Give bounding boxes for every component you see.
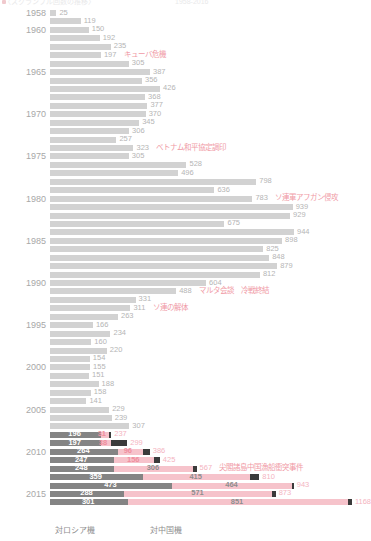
bar-total-label: 299	[130, 438, 143, 447]
bar-total-label: 873	[279, 488, 292, 497]
bar-total-label: 929	[293, 210, 306, 219]
bar-group	[50, 356, 90, 362]
bar-group	[50, 288, 176, 294]
bar-group	[50, 204, 293, 210]
bar-segment-russia	[50, 187, 214, 193]
bar-value-china: 464	[225, 480, 238, 489]
bar-row: 234	[0, 330, 368, 338]
bar-segment-russia	[50, 10, 56, 16]
bar-group	[50, 128, 129, 134]
bar-row: 307	[0, 422, 368, 430]
bar-row: 488マルタ会談 冷戦終結	[0, 287, 368, 295]
bar-segment-russia	[50, 322, 93, 328]
bar-group	[50, 499, 352, 505]
bar-segment-other	[250, 474, 259, 480]
bar-group	[50, 35, 100, 41]
bar-total-label: 166	[96, 320, 109, 329]
bar-segment-russia	[50, 61, 129, 67]
bar-segment-russia	[50, 339, 91, 345]
bar-total-label: 812	[263, 269, 276, 278]
bar-total-label: 305	[132, 151, 145, 160]
bar-segment-russia	[50, 35, 100, 41]
bar-total-label: 234	[113, 328, 126, 337]
bar-group	[50, 466, 197, 472]
bar-segment-russia	[50, 18, 81, 24]
bar-value-china: 851	[231, 497, 244, 506]
bar-total-label: 488	[179, 286, 192, 295]
bar-row: 151	[0, 372, 368, 380]
chart-title: 〈スクランブル回数の推移〉	[4, 0, 95, 6]
bar-row: 160	[0, 338, 368, 346]
bar-group	[50, 415, 112, 421]
bar-total-label: 798	[259, 176, 272, 185]
bar-row: 2005229	[0, 406, 368, 414]
bar-value-china: 156	[127, 455, 140, 464]
bar-row: 359415810	[0, 473, 368, 481]
bar-row: 323ベトナム和平協定調印	[0, 144, 368, 152]
bar-group	[50, 255, 269, 261]
event-annotation: マルタ会談 冷戦終結	[199, 286, 269, 295]
bar-total-label: 898	[285, 235, 298, 244]
bar-row: 119	[0, 17, 368, 25]
bar-group	[50, 229, 294, 235]
bar-total-label: 425	[163, 455, 176, 464]
bar-group	[50, 18, 81, 24]
bar-group	[50, 103, 147, 109]
bar-row: 1985898	[0, 237, 368, 245]
bar-row: 426	[0, 85, 368, 93]
bar-row: 496	[0, 169, 368, 177]
bar-segment-russia	[50, 381, 99, 387]
bar-total-label: 263	[121, 311, 134, 320]
bar-total-label: 307	[132, 421, 145, 430]
bar-row: 263	[0, 313, 368, 321]
bar-segment-russia	[50, 111, 146, 117]
bar-segment-russia	[50, 170, 178, 176]
chart-period-range: 1958-2016	[175, 0, 208, 6]
bar-segment-russia	[50, 86, 160, 92]
bar-row: 377	[0, 102, 368, 110]
bar-group	[50, 187, 214, 193]
bar-group	[50, 457, 160, 463]
bar-row: 306	[0, 127, 368, 135]
bar-group	[50, 297, 136, 303]
bar-segment-russia	[50, 356, 90, 362]
bar-segment-russia	[50, 27, 89, 33]
bar-row: 879	[0, 262, 368, 270]
bar-row: 247156425	[0, 456, 368, 464]
event-annotation: ソ連の解体	[153, 303, 188, 312]
bar-value-china: 415	[189, 472, 202, 481]
bar-row: 305	[0, 60, 368, 68]
bar-row: 2015288571873	[0, 490, 368, 498]
bar-row: 311ソ連の解体	[0, 304, 368, 312]
bar-segment-russia	[50, 153, 129, 159]
chart-legend: 対ロシア機 対中国機	[0, 525, 368, 541]
bar-group	[50, 407, 109, 413]
legend-item-china: 対中国機	[150, 525, 182, 537]
bar-segment-russia	[50, 390, 91, 396]
bar-segment-russia	[50, 398, 86, 404]
bar-group	[50, 111, 146, 117]
bar-segment-other	[109, 432, 112, 438]
bar-group	[50, 120, 139, 126]
bar-total-label: 306	[132, 126, 145, 135]
bar-segment-russia	[50, 78, 142, 84]
bar-total-label: 239	[115, 413, 128, 422]
bar-group	[50, 137, 116, 143]
bar-segment-russia	[50, 415, 112, 421]
bar-row: 1970370	[0, 110, 368, 118]
bar-value-russia: 473	[104, 480, 117, 489]
event-annotation: キューバ危機	[124, 50, 166, 59]
bar-segment-russia	[50, 120, 139, 126]
bar-group	[50, 213, 290, 219]
bar-group	[50, 44, 111, 50]
bar-segment-russia	[50, 238, 282, 244]
bar-total-label: 944	[297, 227, 310, 236]
bar-segment-russia	[50, 94, 145, 100]
bar-group	[50, 86, 160, 92]
bar-row: 188	[0, 380, 368, 388]
bar-segment-russia	[50, 246, 263, 252]
bar-row: 812	[0, 271, 368, 279]
bar-row: 19738299	[0, 439, 368, 447]
bar-segment-russia	[50, 103, 147, 109]
legend-item-russia: 対ロシア機	[55, 525, 95, 537]
